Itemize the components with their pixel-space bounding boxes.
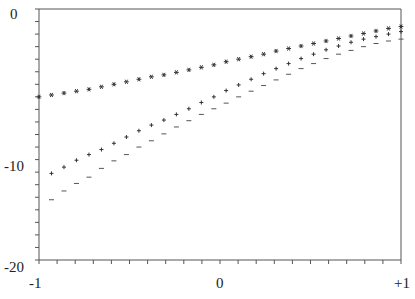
plus-marker <box>312 52 316 56</box>
plus-marker <box>124 135 128 139</box>
star-marker <box>199 65 204 69</box>
star-marker <box>87 87 92 91</box>
star-marker <box>211 63 216 67</box>
plus-marker <box>87 153 91 157</box>
star-marker <box>336 36 341 40</box>
star-marker <box>236 57 241 61</box>
plus-marker <box>224 89 228 93</box>
plus-marker <box>137 129 141 133</box>
star-marker <box>249 55 254 59</box>
star-marker <box>311 41 316 45</box>
plus-marker <box>324 48 328 52</box>
star-marker <box>161 73 166 77</box>
star-marker <box>137 77 142 81</box>
x-tick-label-right: +1 <box>394 275 410 291</box>
plus-marker <box>112 141 116 145</box>
star-marker <box>74 89 79 93</box>
plus-marker <box>337 44 341 48</box>
star-marker <box>274 49 279 53</box>
star-marker <box>386 26 391 30</box>
star-marker <box>224 60 229 64</box>
star-marker <box>62 91 67 95</box>
data-series <box>37 24 404 199</box>
star-marker <box>349 34 354 38</box>
plus-marker <box>374 35 378 39</box>
plus-marker <box>99 148 103 152</box>
x-tick-label-left: -1 <box>29 275 42 291</box>
star-marker <box>112 82 117 86</box>
plus-marker <box>74 158 78 162</box>
plus-marker <box>187 107 191 111</box>
star-marker <box>286 46 291 50</box>
plus-marker <box>237 83 241 87</box>
x-tick-label-center: 0 <box>216 275 224 291</box>
star-marker <box>49 93 54 97</box>
plus-marker <box>399 30 403 34</box>
y-tick-label-bottom: -20 <box>4 259 24 275</box>
star-marker <box>374 29 379 33</box>
plus-marker <box>62 165 66 169</box>
x-axis-ticks <box>39 260 401 264</box>
plus-marker <box>199 100 203 104</box>
plus-marker <box>174 112 178 116</box>
plus-marker <box>212 95 216 99</box>
y-tick-label-middle: -10 <box>4 158 24 174</box>
plus-marker <box>362 37 366 41</box>
plus-marker <box>387 32 391 36</box>
plot-frame <box>39 9 401 260</box>
star-marker <box>99 85 104 89</box>
plus-marker <box>162 118 166 122</box>
y-tick-label-top: 0 <box>10 6 18 22</box>
plus-marker <box>249 77 253 81</box>
chart: 0 -10 -20 -1 0 +1 <box>0 0 415 299</box>
plus-marker <box>274 67 278 71</box>
plus-marker <box>349 40 353 44</box>
plus-marker <box>299 57 303 61</box>
star-marker <box>124 80 129 84</box>
plus-marker <box>262 72 266 76</box>
star-marker <box>149 75 154 79</box>
plus-marker <box>49 171 53 175</box>
plus-marker <box>287 62 291 66</box>
star-marker <box>361 31 366 35</box>
star-marker <box>261 52 266 56</box>
star-marker <box>299 44 304 48</box>
star-marker <box>324 39 329 43</box>
plus-marker <box>149 123 153 127</box>
star-marker <box>174 70 179 74</box>
star-marker <box>186 68 191 72</box>
y-axis-ticks <box>35 9 39 260</box>
